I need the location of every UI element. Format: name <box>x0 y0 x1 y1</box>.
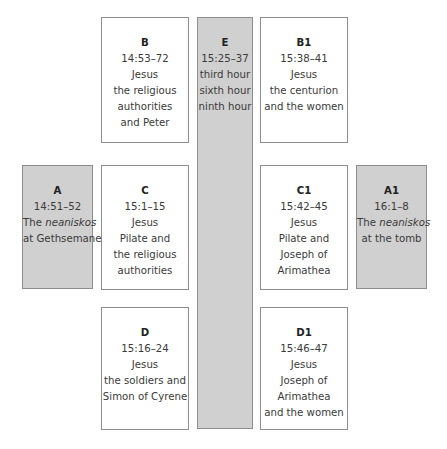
box-reference: 15:38–41 <box>261 51 347 67</box>
box-line: at Gethsemane <box>23 231 92 247</box>
box-label: D <box>102 325 188 341</box>
box-label: A <box>23 183 92 199</box>
box-line: Joseph of <box>261 373 347 389</box>
box-line: Arimathea <box>261 263 347 279</box>
box-line: third hour <box>198 67 252 83</box>
box-reference: 15:16–24 <box>102 341 188 357</box>
box-c1: C1 15:42–45 Jesus Pilate and Joseph of A… <box>260 165 348 290</box>
box-c: C 15:1–15 Jesus Pilate and the religious… <box>101 165 189 290</box>
box-label: E <box>198 35 252 51</box>
italic-term: neaniskos <box>45 217 96 228</box>
box-line: Simon of Cyrene <box>102 389 188 405</box>
box-line: Pilate and <box>102 231 188 247</box>
box-line: the religious <box>102 247 188 263</box>
box-line-neaniskos: The neaniskos <box>23 215 92 231</box>
box-line: Jesus <box>102 67 188 83</box>
italic-term: neaniskos <box>379 217 430 228</box>
box-reference: 14:51–52 <box>23 199 92 215</box>
box-label: A1 <box>357 183 426 199</box>
box-line: and the women <box>261 99 347 115</box>
box-label: C1 <box>261 183 347 199</box>
box-line: the soldiers and <box>102 373 188 389</box>
box-line: at the tomb <box>357 231 426 247</box>
box-reference: 15:1–15 <box>102 199 188 215</box>
box-a: A 14:51–52 The neaniskos at Gethsemane <box>22 165 93 289</box>
box-e-center: E 15:25–37 third hour sixth hour ninth h… <box>197 17 253 429</box>
box-line: sixth hour <box>198 83 252 99</box>
box-line-neaniskos: The neaniskos <box>357 215 426 231</box>
box-label: B <box>102 35 188 51</box>
box-label: D1 <box>261 325 347 341</box>
box-line: Joseph of <box>261 247 347 263</box>
box-line: Jesus <box>261 357 347 373</box>
box-reference: 16:1–8 <box>357 199 426 215</box>
box-line: ninth hour <box>198 99 252 115</box>
box-line: authorities <box>102 263 188 279</box>
box-b: B 14:53–72 Jesus the religious authoriti… <box>101 17 189 143</box>
box-label: B1 <box>261 35 347 51</box>
box-line: Pilate and <box>261 231 347 247</box>
box-reference: 14:53–72 <box>102 51 188 67</box>
box-line: Jesus <box>261 67 347 83</box>
box-line: the centurion <box>261 83 347 99</box>
box-d1: D1 15:46–47 Jesus Joseph of Arimathea an… <box>260 307 348 430</box>
box-line: Arimathea <box>261 389 347 405</box>
box-line: the religious <box>102 83 188 99</box>
box-line: and the women <box>261 405 347 421</box>
box-b1: B1 15:38–41 Jesus the centurion and the … <box>260 17 348 143</box>
box-line: Jesus <box>102 215 188 231</box>
box-label: C <box>102 183 188 199</box>
box-reference: 15:42–45 <box>261 199 347 215</box>
box-reference: 15:46–47 <box>261 341 347 357</box>
box-line: Jesus <box>102 357 188 373</box>
box-line: authorities <box>102 99 188 115</box>
box-line: Jesus <box>261 215 347 231</box>
box-a1: A1 16:1–8 The neaniskos at the tomb <box>356 165 427 289</box>
box-d: D 15:16–24 Jesus the soldiers and Simon … <box>101 307 189 430</box>
box-reference: 15:25–37 <box>198 51 252 67</box>
box-line: and Peter <box>102 115 188 131</box>
